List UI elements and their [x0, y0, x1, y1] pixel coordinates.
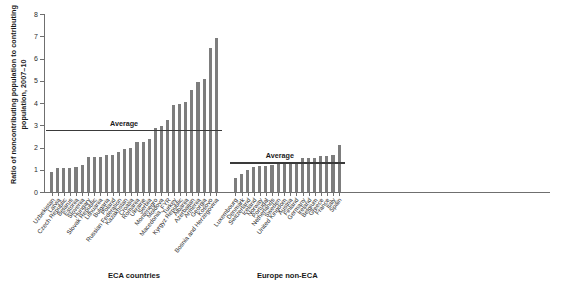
average-label: Average: [110, 119, 138, 128]
bar: [117, 152, 120, 192]
y-tick-label: 0: [24, 189, 38, 196]
x-tick: [284, 193, 285, 196]
x-tick: [242, 193, 243, 196]
bar: [111, 155, 114, 192]
x-tick: [235, 193, 236, 196]
x-tick: [186, 193, 187, 196]
bar: [105, 155, 108, 192]
x-tick: [76, 193, 77, 196]
average-line: [230, 162, 345, 164]
bar: [258, 166, 261, 192]
x-tick: [321, 193, 322, 196]
x-tick: [70, 193, 71, 196]
bar: [74, 167, 77, 192]
bar: [93, 157, 96, 192]
x-tick: [113, 193, 114, 196]
x-tick: [315, 193, 316, 196]
x-tick: [204, 193, 205, 196]
x-tick: [339, 193, 340, 196]
x-tick: [210, 193, 211, 196]
x-tick: [180, 193, 181, 196]
x-tick: [107, 193, 108, 196]
bar: [264, 166, 267, 192]
bar: [87, 157, 90, 192]
x-tick: [149, 193, 150, 196]
x-tick: [290, 193, 291, 196]
bar: [234, 178, 237, 192]
x-tick: [137, 193, 138, 196]
bar: [62, 168, 65, 192]
y-tick: [40, 14, 44, 15]
y-tick-label: 5: [24, 77, 38, 84]
x-tick: [131, 193, 132, 196]
bar: [123, 149, 126, 192]
x-tick: [254, 193, 255, 196]
group-title: ECA countries: [54, 271, 214, 280]
x-tick: [198, 193, 199, 196]
x-tick: [64, 193, 65, 196]
x-tick: [192, 193, 193, 196]
y-tick-label: 1: [24, 166, 38, 173]
x-tick: [248, 193, 249, 196]
y-tick: [40, 125, 44, 126]
x-tick: [303, 193, 304, 196]
bar: [142, 142, 145, 193]
x-tick: [82, 193, 83, 196]
y-tick-label: 7: [24, 33, 38, 40]
x-tick: [88, 193, 89, 196]
y-axis-line: [44, 14, 45, 192]
y-tick-label: 2: [24, 144, 38, 151]
bar: [283, 164, 286, 192]
bar: [295, 162, 298, 192]
x-tick: [52, 193, 53, 196]
bar: [215, 38, 218, 192]
bar: [99, 157, 102, 192]
bar: [270, 165, 273, 192]
y-axis-title: Ratio of noncontributing population to c…: [9, 5, 28, 185]
bar: [50, 172, 53, 192]
y-tick: [40, 192, 44, 193]
plot-area: 012345678 AverageAverage UzbekistanLatvi…: [44, 14, 550, 192]
x-tick: [94, 193, 95, 196]
bar: [154, 128, 157, 192]
bar: [203, 79, 206, 192]
bar: [190, 90, 193, 192]
bar: [148, 139, 151, 192]
y-tick: [40, 59, 44, 60]
x-tick: [333, 193, 334, 196]
bar: [135, 142, 138, 193]
x-tick: [174, 193, 175, 196]
bar: [172, 105, 175, 192]
bar: [178, 104, 181, 192]
y-tick-label: 6: [24, 55, 38, 62]
average-label: Average: [266, 151, 294, 160]
bar: [338, 145, 341, 192]
bar: [68, 168, 71, 192]
y-tick: [40, 36, 44, 37]
bar: [246, 170, 249, 192]
y-tick: [40, 170, 44, 171]
x-tick: [296, 193, 297, 196]
bar: [289, 163, 292, 192]
bar: [240, 174, 243, 192]
x-tick: [260, 193, 261, 196]
x-tick: [168, 193, 169, 196]
chart-figure: Ratio of noncontributing population to c…: [0, 0, 562, 292]
y-tick-label: 3: [24, 122, 38, 129]
bar: [209, 48, 212, 192]
bar: [160, 126, 163, 192]
x-tick: [143, 193, 144, 196]
x-tick: [161, 193, 162, 196]
x-tick: [309, 193, 310, 196]
bar: [81, 165, 84, 192]
average-line: [46, 130, 222, 132]
x-tick: [125, 193, 126, 196]
y-tick: [40, 103, 44, 104]
x-tick: [216, 193, 217, 196]
y-tick: [40, 148, 44, 149]
bar: [56, 168, 59, 192]
x-tick: [58, 193, 59, 196]
y-tick-label: 4: [24, 100, 38, 107]
x-tick: [272, 193, 273, 196]
bar: [252, 167, 255, 192]
